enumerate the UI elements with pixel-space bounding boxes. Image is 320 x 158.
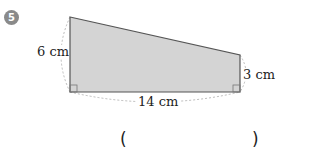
left-side-label: 6 cm [37,45,69,58]
right-side-label: 3 cm [243,68,275,81]
bottom-side-label: 14 cm [136,95,180,108]
answer-open-paren: ( [120,131,127,148]
trapezoid-shape [70,17,240,92]
answer-blank[interactable] [130,128,250,150]
answer-close-paren: ) [252,131,259,148]
